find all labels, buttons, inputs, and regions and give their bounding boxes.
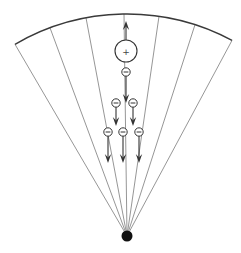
electron <box>122 68 130 103</box>
field-ray <box>50 28 127 236</box>
field-ray <box>127 40 232 236</box>
electron-group <box>104 68 143 163</box>
anode-wire-dot <box>122 231 133 242</box>
avalanche-diagram: + <box>0 0 241 253</box>
electron <box>129 99 137 126</box>
field-ray <box>15 44 127 236</box>
electron <box>112 99 120 126</box>
positive-ion: + <box>115 21 137 62</box>
plus-sign: + <box>122 47 130 57</box>
electron <box>104 128 112 163</box>
electron <box>135 128 143 163</box>
